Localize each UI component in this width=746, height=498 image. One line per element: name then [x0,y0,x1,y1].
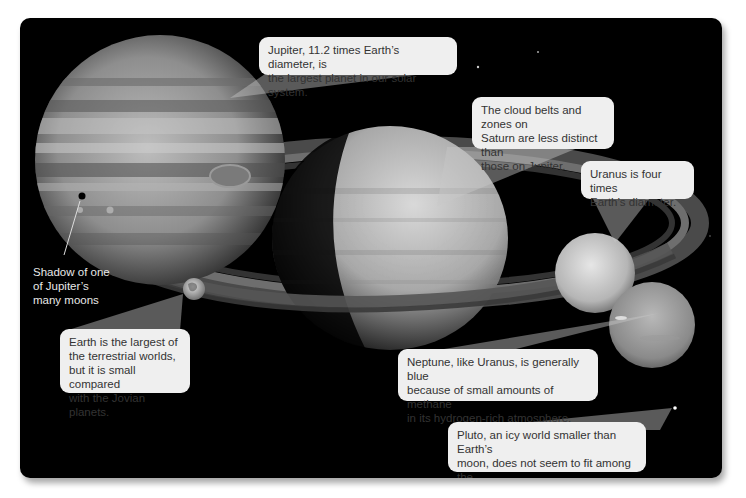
uranus-callout-line-1: Uranus is four times [590,167,685,195]
pluto-callout-line-1: Pluto, an icy world smaller than Earth’s [457,428,637,456]
saturn-callout-line-1: The cloud belts and zones on [481,103,605,131]
jupiter-callout-line-2: the largest planet in our solar system. [268,71,448,99]
saturn-callout: The cloud belts and zones on Saturn are … [472,97,614,149]
neptune-callout: Neptune, like Uranus, is generally blue … [398,349,598,401]
moon-shadow-label-line-1: Shadow of one [33,265,123,279]
earth-callout-line-3: but it is small compared [69,363,181,391]
figure-panel: Jupiter, 11.2 times Earth’s diameter, is… [20,18,722,478]
pluto-dot-icon [673,406,677,410]
neptune-callout-line-1: Neptune, like Uranus, is generally blue [407,355,589,383]
neptune-callout-line-2: because of small amounts of methane [407,383,589,411]
earth-callout-line-4: with the Jovian planets. [69,391,181,419]
earth-planet-icon [183,278,205,300]
jupiter-planet-icon [20,35,300,285]
jupiter-callout-line-1: Jupiter, 11.2 times Earth’s diameter, is [268,43,448,71]
moon-shadow-label-line-2: of Jupiter’s [33,279,123,293]
pluto-callout-line-2: moon, does not seem to fit among the [457,456,637,478]
moon-shadow-label: Shadow of one of Jupiter’s many moons [33,265,123,307]
uranus-callout-line-2: Earth’s diameter. [590,195,685,209]
jupiter-callout: Jupiter, 11.2 times Earth’s diameter, is… [259,37,457,75]
pluto-callout: Pluto, an icy world smaller than Earth’s… [448,422,646,472]
neptune-planet-icon [609,282,695,368]
moon-shadow-dot [79,193,86,200]
earth-callout-line-2: the terrestrial worlds, [69,349,181,363]
uranus-callout: Uranus is four times Earth’s diameter. [581,161,694,199]
moon-shadow-label-line-3: many moons [33,293,123,307]
earth-callout: Earth is the largest of the terrestrial … [60,329,190,393]
earth-callout-line-1: Earth is the largest of [69,335,181,349]
saturn-callout-line-2: Saturn are less distinct than [481,131,605,159]
